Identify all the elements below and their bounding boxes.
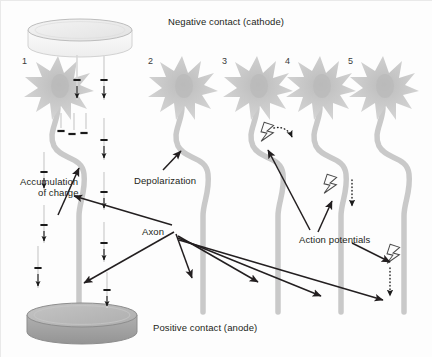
axon-label: Axon xyxy=(142,226,164,237)
cathode-disc xyxy=(28,19,132,57)
charge-stream xyxy=(34,246,41,288)
dotted-arc-arrow-3 xyxy=(274,127,292,137)
ap-leader-3 xyxy=(268,150,310,230)
action-potentials-label: Action potentials xyxy=(299,234,370,245)
lightning-bolt-icon-3 xyxy=(258,122,275,144)
column-number-4: 4 xyxy=(285,56,290,66)
lightning-bolt-icon-5 xyxy=(384,244,401,266)
axon-5 xyxy=(377,108,409,312)
axon-leader-6 xyxy=(179,240,383,300)
charge-stream xyxy=(100,118,107,160)
axon-1 xyxy=(52,108,84,310)
charge-stream xyxy=(103,272,110,308)
axon-group xyxy=(52,108,409,312)
anode-disc xyxy=(27,303,137,344)
depolarization-label: Depolarization xyxy=(134,175,196,186)
column-number-5: 5 xyxy=(348,56,353,66)
column-number-2: 2 xyxy=(148,56,153,66)
axon-leader-2 xyxy=(84,232,174,283)
accumulated-charge-group xyxy=(57,131,87,134)
ap-leader-5 xyxy=(352,243,390,262)
accumulation-label-line2: of charge xyxy=(38,187,79,198)
figure-canvas: 1 2 3 4 5 Negative contact (cathode) Pos… xyxy=(0,0,432,357)
axon-leader-1 xyxy=(74,196,172,225)
accumulation-label-line1: Accumulation xyxy=(20,176,78,187)
column-number-3: 3 xyxy=(222,56,227,66)
cathode-label: Negative contact (cathode) xyxy=(168,16,284,27)
column-number-1: 1 xyxy=(22,56,27,66)
charge-stream xyxy=(40,205,47,243)
axon-2 xyxy=(176,108,208,312)
depolarization-leader xyxy=(163,151,181,170)
lightning-bolt-icon-4 xyxy=(321,174,338,196)
charge-stream xyxy=(100,222,107,262)
charge-stream xyxy=(100,55,107,100)
anode-label: Positive contact (anode) xyxy=(153,322,257,333)
ap-leader-4 xyxy=(318,201,332,232)
